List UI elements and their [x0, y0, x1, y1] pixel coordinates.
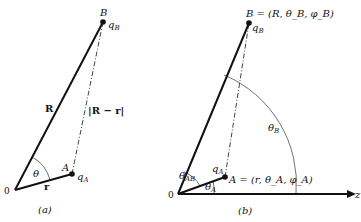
charge-A-dot	[69, 171, 75, 177]
diagram-canvas: B qB A qA R r |R − r| θ 0 (a) B = (R, θ_…	[0, 0, 361, 222]
caption-a: (a)	[38, 204, 52, 215]
distance-label: |R − r|	[88, 105, 124, 117]
origin-label-a: 0	[4, 186, 10, 196]
angle-theta-A-label: θA	[205, 181, 216, 194]
point-B-label: B	[99, 7, 107, 18]
angle-theta-B-label: θB	[268, 122, 279, 135]
distance-line-b	[225, 23, 249, 177]
diagram-root: B qB A qA R r |R − r| θ 0 (a) B = (R, θ_…	[0, 0, 361, 222]
vector-r-label: r	[44, 181, 50, 192]
origin-label-b: 0	[168, 190, 174, 200]
angle-theta-label: θ	[33, 168, 39, 179]
point-A-label: A	[61, 162, 69, 173]
point-A-coords: A = (r, θ_A, φ_A)	[228, 174, 313, 186]
charge-A-label: qA	[77, 171, 88, 184]
charge-B-dot-b	[246, 20, 252, 26]
vector-R-label: R	[45, 103, 54, 114]
distance-line	[72, 22, 103, 174]
figure-b: B = (R, θ_B, φ_B) qB A = (r, θ_A, φ_A) q…	[168, 8, 361, 216]
point-B-coords: B = (R, θ_B, φ_B)	[245, 8, 334, 20]
caption-b: (b)	[238, 205, 252, 216]
charge-B-label: qB	[108, 19, 120, 32]
figure-a: B qB A qA R r |R − r| θ 0 (a)	[4, 7, 124, 215]
charge-B-label-b: qB	[252, 22, 264, 35]
charge-B-dot	[100, 19, 106, 25]
z-axis-label: z	[354, 189, 361, 200]
charge-A-label-b: qA	[212, 163, 223, 176]
